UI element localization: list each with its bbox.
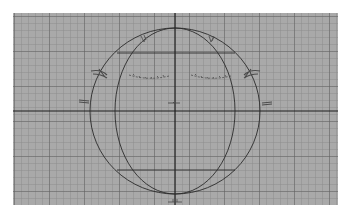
nose-icon — [168, 102, 180, 104]
hair-tuft-left-icon — [141, 35, 146, 42]
hair-tuft-right-icon — [209, 36, 214, 42]
eye-right-icon — [191, 74, 231, 80]
viewport-scene[interactable] — [13, 13, 338, 205]
modeling-viewport-front[interactable] — [13, 13, 338, 205]
ear-left-icon — [79, 100, 89, 103]
eye-left-icon — [129, 74, 169, 80]
ear-right-icon — [262, 102, 272, 105]
